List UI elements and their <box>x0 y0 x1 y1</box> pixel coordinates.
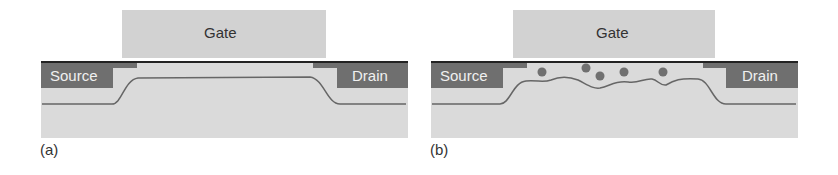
trap-charge <box>596 72 605 81</box>
source-label: Source <box>440 67 488 84</box>
panel-b: Gate Source Drain (b) <box>418 0 837 175</box>
trap-charge <box>620 68 629 77</box>
gate-label: Gate <box>204 24 237 41</box>
trap-charge <box>538 68 547 77</box>
trap-charge <box>582 64 591 73</box>
trap-charge <box>659 68 668 77</box>
drain-label: Drain <box>742 67 778 84</box>
caption-a: (a) <box>40 141 58 158</box>
gate-label: Gate <box>596 24 629 41</box>
drain-label: Drain <box>352 67 388 84</box>
caption-b: (b) <box>430 141 448 158</box>
panel-a: Gate Source Drain (a) <box>0 0 419 175</box>
source-label: Source <box>50 67 98 84</box>
